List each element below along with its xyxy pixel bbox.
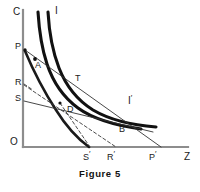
point-label-r: R [15, 78, 22, 87]
curve-label-i-prime: I′ [128, 94, 132, 106]
prime-mark-i: ′ [131, 93, 132, 102]
tick-label-p-prime: P′ [149, 150, 156, 162]
figure-container: C Z O I I′ P A R S T D B S′ R′ P′ Figure… [0, 0, 200, 192]
x-axis-label: Z [184, 152, 190, 162]
point-marker-d [58, 101, 61, 104]
y-axis-label: C [13, 7, 20, 17]
prime-mark-s: ′ [89, 149, 90, 158]
curve-label-i: I [55, 6, 58, 16]
prime-mark-p: ′ [155, 149, 156, 158]
tick-line-r [24, 84, 33, 90]
origin-label: O [10, 137, 18, 147]
point-label-p: P [15, 42, 21, 51]
point-label-s: S [15, 94, 21, 103]
tick-label-s-prime: S′ [83, 150, 90, 162]
tick-label-r-prime: R′ [107, 150, 115, 162]
point-label-d: D [67, 105, 74, 114]
figure-caption: Figure 5 [0, 168, 200, 179]
point-label-a: A [35, 61, 41, 70]
point-label-b: B [119, 125, 125, 134]
connector-d-sprime [60, 103, 90, 147]
prime-mark-r: ′ [114, 149, 115, 158]
figure-graphic [0, 0, 200, 192]
point-marker-p [23, 48, 26, 51]
point-label-t: T [75, 74, 81, 83]
budget-line-p-pprime [25, 50, 161, 147]
